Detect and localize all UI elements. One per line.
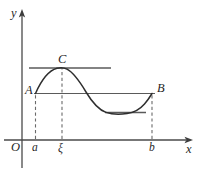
x-tick-label-xi: ξ [58,143,63,155]
x-axis-label: x [186,143,192,156]
x-tick-label-a: a [32,142,38,154]
y-axis-label: y [11,7,17,20]
point-label-a: A [25,84,33,97]
point-label-c: C [58,53,66,66]
function-curve [36,68,153,114]
origin-label: O [11,141,20,154]
x-tick-label-b: b [149,142,155,154]
point-label-b: B [157,82,165,95]
figure-canvas: y x O a ξ b A B C [0,0,205,180]
